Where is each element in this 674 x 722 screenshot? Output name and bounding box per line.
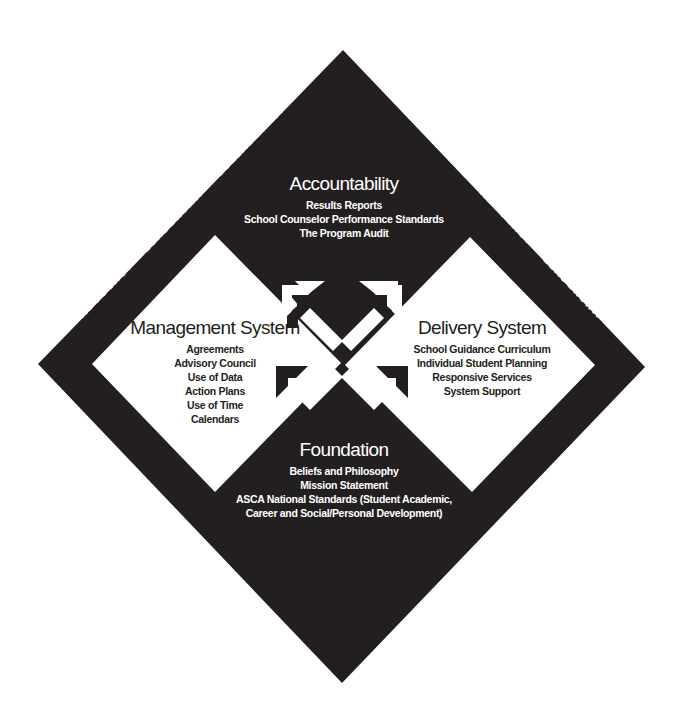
management-item: Calendars [191, 413, 240, 425]
management-item: Use of Time [187, 399, 243, 411]
delivery-item: Responsive Services [432, 371, 532, 383]
foundation-item: Mission Statement [300, 479, 388, 491]
accountability-item: School Counselor Performance Standards [244, 213, 444, 225]
delivery-item: School Guidance Curriculum [414, 343, 551, 355]
delivery-item: System Support [444, 385, 521, 397]
delivery-item: Individual Student Planning [417, 357, 547, 369]
management-title: Management System [130, 317, 299, 338]
management-item: Use of Data [188, 371, 243, 383]
management-item: Action Plans [185, 385, 245, 397]
foundation-item: Career and Social/Personal Development) [246, 507, 443, 519]
accountability-item: Results Reports [306, 199, 382, 211]
management-item: Agreements [186, 343, 244, 355]
management-item: Advisory Council [174, 357, 256, 369]
delivery-title: Delivery System [418, 317, 546, 338]
foundation-item: ASCA National Standards (Student Academi… [236, 493, 452, 505]
accountability-item: The Program Audit [299, 227, 389, 239]
asca-model-diagram: • ADVOCACY • LEADERSHIP • COLLABORATION … [0, 0, 674, 722]
foundation-item: Beliefs and Philosophy [290, 465, 399, 477]
accountability-title: Accountability [290, 173, 400, 194]
foundation-title: Foundation [299, 439, 388, 460]
